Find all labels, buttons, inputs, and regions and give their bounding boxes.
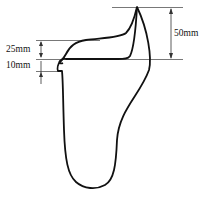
dimension-25mm-label: 25mm [6,44,31,54]
dimension-25mm-arrow [39,41,43,58]
dimension-50mm-label: 50mm [174,28,199,38]
dimension-50mm-arrow [169,8,173,59]
insole-diagram: 50mm 25mm 10mm [0,0,204,203]
insole-inner-curve [59,7,137,63]
dimension-10mm-label: 10mm [6,60,31,70]
dimension-10mm-arrow [39,61,43,84]
insole-outline [58,7,150,188]
